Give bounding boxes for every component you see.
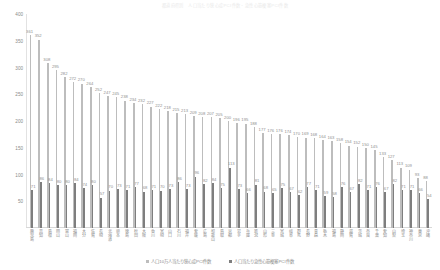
bar-series-2[interactable] [229, 168, 231, 228]
bar-series-2[interactable] [135, 187, 137, 228]
legend-item[interactable]: 人口当たり急性心筋梗塞PCI件数 [229, 258, 293, 264]
bar-column[interactable]: 23871 [122, 14, 131, 228]
bar-column[interactable]: 17467 [285, 14, 294, 228]
bar-column[interactable]: 21873 [165, 14, 174, 228]
bar-value-label-series-1: 200 [224, 116, 231, 120]
bar-series-2[interactable] [109, 191, 111, 228]
bar-value-label-series-1: 238 [121, 95, 128, 99]
bar-series-2[interactable] [117, 189, 119, 228]
bar-column[interactable]: 9366 [414, 14, 423, 228]
bar-column[interactable]: 28280 [61, 14, 70, 228]
bar-column[interactable]: 17665 [268, 14, 277, 228]
bar-column[interactable]: 23477 [130, 14, 139, 228]
bar-column[interactable]: 20996 [191, 14, 200, 228]
bar-column[interactable]: 20575 [216, 14, 225, 228]
bar-column[interactable]: 14576 [371, 14, 380, 228]
bar-column[interactable]: 16358 [328, 14, 337, 228]
bar-series-2[interactable] [49, 183, 51, 228]
bar-series-2[interactable] [74, 183, 76, 228]
bar-series-2[interactable] [264, 192, 266, 228]
bar-series-2[interactable] [255, 185, 257, 228]
bar-series-2[interactable] [178, 182, 180, 228]
x-tick-label: 山口 [165, 229, 174, 251]
bar-column[interactable]: 15876 [337, 14, 346, 228]
bar-series-2[interactable] [367, 190, 369, 228]
bar-column[interactable]: 17062 [294, 14, 303, 228]
bar-column[interactable]: 29580 [53, 14, 62, 228]
bar-series-2[interactable] [393, 184, 395, 228]
bar-series-2[interactable] [333, 197, 335, 228]
bar-column[interactable]: 12782 [389, 14, 398, 228]
bar-series-2[interactable] [384, 192, 386, 228]
bar-series-2[interactable] [315, 190, 317, 228]
bar-column[interactable]: 16871 [311, 14, 320, 228]
bar-series-2[interactable] [281, 188, 283, 228]
bar-column[interactable]: 20784 [208, 14, 217, 228]
bar-series-2[interactable] [238, 189, 240, 228]
bar-column[interactable]: 27284 [70, 14, 79, 228]
bar-series-2[interactable] [143, 192, 145, 228]
bar-series-2[interactable] [376, 187, 378, 228]
bar-series-2[interactable] [402, 190, 404, 228]
bar-column[interactable]: 23268 [139, 14, 148, 228]
bar-series-2[interactable] [410, 190, 412, 228]
x-tick-label: 群馬 [294, 229, 303, 251]
bar-column[interactable]: 24573 [113, 14, 122, 228]
bar-series-2[interactable] [203, 184, 205, 228]
bar-series-2[interactable] [212, 183, 214, 228]
bar-column[interactable]: 26480 [87, 14, 96, 228]
bar-series-2[interactable] [247, 193, 249, 228]
bar-series-2[interactable] [160, 191, 162, 228]
bar-series-2[interactable] [290, 192, 292, 228]
bar-series-2[interactable] [195, 177, 197, 228]
bar-series-2[interactable] [83, 188, 85, 228]
bar-series-2[interactable] [324, 196, 326, 228]
bar-series-2[interactable] [298, 195, 300, 228]
bar-column[interactable]: 30884 [44, 14, 53, 228]
bar-column[interactable]: 22771 [148, 14, 157, 228]
bar-column[interactable]: 17768 [259, 14, 268, 228]
bar-series-2[interactable] [152, 190, 154, 228]
bar-series-2[interactable] [307, 187, 309, 228]
bar-column[interactable]: 15282 [354, 14, 363, 228]
bar-column[interactable]: 36171 [27, 14, 36, 228]
bar-column[interactable]: 20882 [199, 14, 208, 228]
bar-series-2[interactable] [92, 185, 94, 228]
bar-series-2[interactable] [350, 192, 352, 228]
bar-column[interactable]: 15071 [363, 14, 372, 228]
bar-column[interactable]: 18881 [251, 14, 260, 228]
bar-series-2[interactable] [100, 198, 102, 228]
bar-series-2[interactable] [31, 190, 33, 228]
bar-column[interactable]: 8854 [423, 14, 432, 228]
bar-column[interactable]: 21586 [173, 14, 182, 228]
bar-value-label-series-1: 222 [155, 104, 162, 108]
bar-column[interactable]: 13367 [380, 14, 389, 228]
bar-series-2[interactable] [186, 189, 188, 228]
bar-column[interactable]: 24770 [104, 14, 113, 228]
bar-series-2[interactable] [66, 185, 68, 228]
bar-column[interactable]: 16977 [303, 14, 312, 228]
bar-series-2[interactable] [57, 185, 59, 228]
bar-column[interactable]: 15467 [346, 14, 355, 228]
bar-series-2[interactable] [126, 190, 128, 228]
bar-series-2[interactable] [169, 189, 171, 228]
bar-column[interactable]: 25257 [96, 14, 105, 228]
bar-column[interactable]: 10971 [406, 14, 415, 228]
bar-column[interactable]: 22270 [156, 14, 165, 228]
bar-series-2[interactable] [272, 193, 274, 228]
bar-column[interactable]: 11371 [397, 14, 406, 228]
legend-item[interactable]: 人口10万人当たり狭心症PCI件数 [146, 258, 211, 264]
bar-series-2[interactable] [221, 188, 223, 228]
bar-series-2[interactable] [427, 199, 429, 228]
bar-column[interactable]: 27074 [79, 14, 88, 228]
bar-column[interactable]: 21373 [182, 14, 191, 228]
bar-series-2[interactable] [341, 187, 343, 228]
bar-series-2[interactable] [358, 184, 360, 228]
bar-series-2[interactable] [40, 182, 42, 228]
bar-column[interactable]: 35286 [36, 14, 45, 228]
bar-column[interactable]: 16459 [320, 14, 329, 228]
bar-series-2[interactable] [419, 193, 421, 228]
bar-column[interactable]: 17675 [277, 14, 286, 228]
y-tick-label: 400 [15, 12, 23, 17]
bar-value-label-series-1: 247 [104, 91, 111, 95]
